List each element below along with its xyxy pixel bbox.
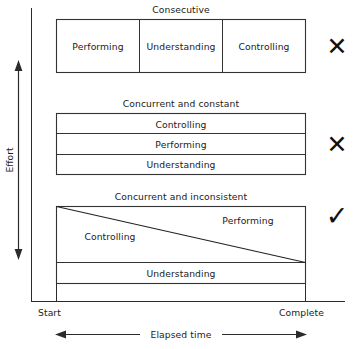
cell-inconsistent-controlling: Controlling xyxy=(84,231,135,242)
x-axis-label: Elapsed time xyxy=(151,329,212,340)
x-tick-label-start: Start xyxy=(38,307,61,318)
x-tick-label-complete: Complete xyxy=(279,307,324,318)
cell-consecutive-understanding: Understanding xyxy=(147,41,216,52)
y-axis-label: Effort xyxy=(4,147,15,173)
effort-over-time-diagram: Effort Consecutive Performing Understand… xyxy=(0,0,362,349)
effort-axis-arrow xyxy=(15,60,23,260)
cross-icon-concurrent-constant: ✕ xyxy=(327,130,348,159)
group-title-consecutive: Consecutive xyxy=(152,4,210,15)
cross-icon-consecutive: ✕ xyxy=(327,32,348,61)
cell-constant-understanding: Understanding xyxy=(147,159,216,170)
cell-consecutive-controlling: Controlling xyxy=(238,41,289,52)
diagram-canvas: Effort Consecutive Performing Understand… xyxy=(0,0,362,349)
group-title-concurrent-inconsistent: Concurrent and inconsistent xyxy=(115,191,248,202)
cell-inconsistent-understanding: Understanding xyxy=(147,268,216,279)
cell-constant-controlling: Controlling xyxy=(155,119,206,130)
cell-inconsistent-performing: Performing xyxy=(222,215,273,226)
cell-consecutive-performing: Performing xyxy=(72,41,123,52)
group-title-concurrent-constant: Concurrent and constant xyxy=(123,98,240,109)
cell-constant-performing: Performing xyxy=(155,139,206,150)
check-icon-concurrent-inconsistent: ✓ xyxy=(326,200,349,231)
